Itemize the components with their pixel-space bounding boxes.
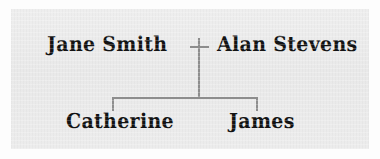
diagram-paper-background: Jane Smith Alan Stevens Catherine James: [11, 9, 369, 149]
descent-connector-line: [198, 57, 200, 98]
family-tree-diagram: Jane Smith Alan Stevens Catherine James: [0, 0, 380, 159]
person-label-catherine: Catherine: [66, 111, 174, 132]
person-label-alan-stevens: Alan Stevens: [217, 34, 358, 55]
person-label-james: James: [229, 111, 295, 132]
marriage-plus-icon-stroke: [198, 38, 200, 57]
person-label-jane-smith: Jane Smith: [47, 34, 167, 55]
sibling-connector-bar: [112, 97, 258, 99]
